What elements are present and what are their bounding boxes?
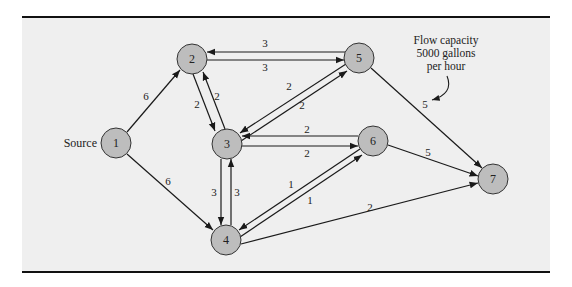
edge-3-2: 2 [203, 72, 225, 129]
node-2: 2 [177, 44, 207, 74]
edge-1-4: 6 [127, 154, 213, 230]
edge-4-7: 2 [241, 183, 478, 244]
node-1: 1 [101, 128, 131, 158]
node-4: 4 [211, 225, 241, 255]
network-diagram: 6 6 3 3 2 2 2 2 2 2 3 3 [0, 0, 572, 287]
svg-text:2: 2 [194, 98, 200, 110]
svg-text:5: 5 [356, 51, 362, 65]
edge-2-5: 3 [207, 60, 344, 73]
svg-text:3: 3 [211, 186, 217, 198]
node-7: 7 [478, 164, 508, 194]
edge-4-3: 3 [231, 159, 240, 225]
svg-text:3: 3 [234, 186, 240, 198]
svg-text:1: 1 [307, 194, 313, 206]
svg-text:2: 2 [189, 52, 195, 66]
svg-text:3: 3 [224, 137, 230, 151]
svg-text:4: 4 [223, 233, 229, 247]
svg-text:per hour: per hour [427, 60, 466, 73]
svg-text:Flow capacity: Flow capacity [414, 34, 479, 47]
edge-2-3: 2 [193, 74, 215, 131]
svg-text:3: 3 [262, 37, 268, 49]
edge-3-4: 3 [211, 159, 221, 225]
svg-text:2: 2 [299, 99, 305, 111]
node-6: 6 [358, 126, 388, 156]
svg-text:1: 1 [113, 136, 119, 150]
edge-3-5: 2 [241, 71, 347, 141]
node-5: 5 [344, 43, 374, 73]
svg-text:6: 6 [370, 134, 376, 148]
edge-5-2: 3 [207, 37, 345, 52]
svg-text:1: 1 [288, 178, 294, 190]
node-3: 3 [212, 129, 242, 159]
edge-4-6: 1 [240, 155, 362, 237]
svg-text:5: 5 [422, 98, 428, 110]
edge-6-7: 5 [388, 145, 478, 176]
svg-text:2: 2 [214, 90, 220, 102]
svg-text:2: 2 [367, 201, 373, 213]
svg-text:3: 3 [262, 61, 268, 73]
svg-text:2: 2 [304, 147, 310, 159]
flow-capacity-annotation: Flow capacity 5000 gallons per hour [414, 34, 479, 100]
svg-text:6: 6 [165, 175, 171, 187]
edge-5-3: 2 [240, 64, 346, 133]
edge-1-2: 6 [127, 70, 180, 132]
svg-text:2: 2 [304, 123, 310, 135]
annotation-arrow-icon [432, 76, 449, 100]
svg-text:5: 5 [425, 146, 431, 158]
edge-3-6: 2 [242, 146, 358, 159]
svg-text:5000 gallons: 5000 gallons [416, 47, 476, 60]
svg-text:7: 7 [490, 172, 496, 186]
svg-text:6: 6 [143, 90, 149, 102]
svg-text:2: 2 [286, 80, 292, 92]
source-label: Source [64, 136, 97, 150]
